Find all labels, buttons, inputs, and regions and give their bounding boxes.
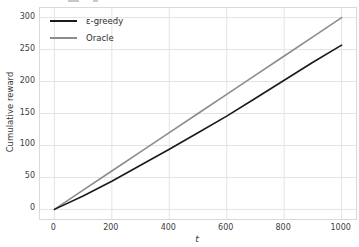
plot-area: ε-greedy Oracle [39, 7, 357, 220]
x-tick-label: 600 [218, 224, 233, 232]
legend-label-egreedy: ε-greedy [86, 17, 123, 26]
clipped-text-mark [93, 0, 98, 2]
y-tick-label: 150 [20, 109, 35, 117]
figure: ε-greedy Oracle 050100150200250300 02004… [0, 0, 359, 247]
x-tick-label: 0 [51, 224, 56, 232]
y-tick-label: 100 [20, 140, 35, 148]
series-line-ε-greedy [54, 45, 341, 209]
y-tick-label: 250 [20, 45, 35, 53]
y-tick-label: 300 [20, 13, 35, 21]
y-tick-label: 50 [25, 172, 35, 180]
legend-entry-egreedy: ε-greedy [50, 15, 123, 27]
legend-label-oracle: Oracle [86, 34, 114, 43]
egreedy-line-swatch [50, 20, 77, 22]
y-tick-label: 0 [30, 204, 35, 212]
clipped-text-mark [68, 0, 79, 2]
x-tick-label: 200 [103, 224, 118, 232]
x-axis-label: t [195, 234, 199, 244]
x-tick-label: 400 [161, 224, 176, 232]
y-tick-label: 200 [20, 77, 35, 85]
y-axis-label: Cumulative reward [5, 72, 15, 153]
x-tick-label: 1000 [330, 224, 350, 232]
legend-entry-oracle: Oracle [50, 32, 123, 44]
clipped-title-remnant [0, 0, 359, 3]
oracle-line-swatch [50, 37, 77, 39]
x-tick-label: 800 [276, 224, 291, 232]
legend: ε-greedy Oracle [46, 13, 127, 46]
